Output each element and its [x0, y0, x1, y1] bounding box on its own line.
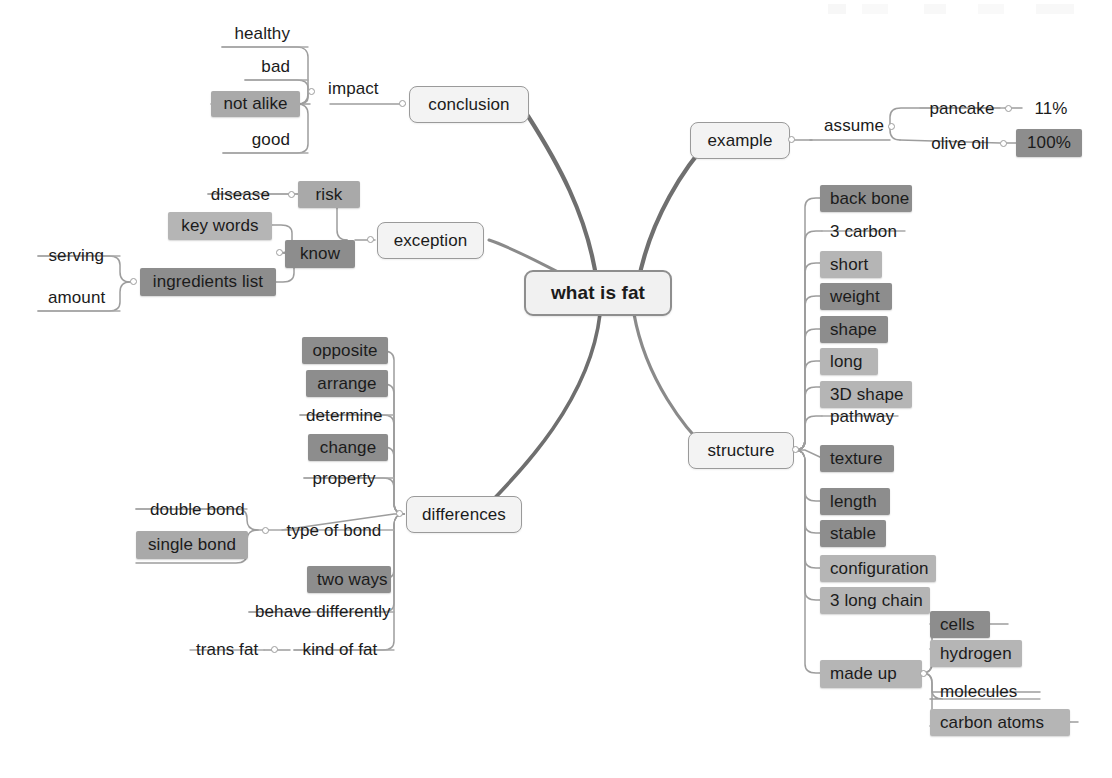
node-assume[interactable]: assume	[814, 113, 892, 138]
collapse-dot-assume[interactable]	[888, 123, 895, 130]
root-node-what-is-fat[interactable]: what is fat	[524, 270, 672, 316]
collapse-dot-differences[interactable]	[396, 510, 403, 517]
node-double-bond[interactable]: double bond	[140, 497, 244, 522]
node-good[interactable]: good	[218, 127, 300, 152]
collapse-dot-pancake[interactable]	[1005, 105, 1012, 112]
collapse-dot-impact[interactable]	[308, 88, 315, 95]
collapse-dot-know[interactable]	[276, 249, 283, 256]
node-change[interactable]: change	[308, 434, 388, 461]
node-shape-label: shape	[830, 320, 878, 340]
node-know[interactable]: know	[285, 240, 355, 268]
collapse-dot-kind-of-fat[interactable]	[271, 646, 278, 653]
node-risk[interactable]: risk	[298, 181, 360, 208]
node-texture[interactable]: texture	[820, 445, 894, 472]
node-determine[interactable]: determine	[296, 403, 388, 428]
node-length[interactable]: length	[820, 488, 890, 515]
branch-example-label: example	[691, 131, 789, 151]
node-bad[interactable]: bad	[224, 54, 300, 79]
node-length-label: length	[830, 492, 880, 512]
node-3-carbon[interactable]: 3 carbon	[820, 219, 912, 244]
collapse-dot-type-of-bond[interactable]	[262, 527, 269, 534]
node-3-long-chain-label: 3 long chain	[830, 591, 920, 611]
branch-differences[interactable]: differences	[406, 496, 522, 533]
node-not-alike-label: not alike	[221, 94, 290, 114]
collapse-dot-ingredients-list[interactable]	[130, 278, 137, 285]
node-amount[interactable]: amount	[38, 285, 114, 310]
node-not-alike[interactable]: not alike	[211, 91, 300, 117]
branch-structure[interactable]: structure	[688, 432, 794, 469]
node-made-up[interactable]: made up	[820, 660, 922, 688]
node-cells[interactable]: cells	[930, 611, 990, 638]
node-pancake-value[interactable]: 11%	[1022, 96, 1080, 121]
branch-structure-label: structure	[689, 441, 793, 461]
node-olive-oil[interactable]: olive oil	[918, 131, 1002, 156]
node-serving-label: serving	[48, 246, 104, 266]
branch-conclusion-label: conclusion	[410, 95, 528, 115]
node-3-long-chain[interactable]: 3 long chain	[820, 587, 930, 614]
node-pathway-label: pathway	[830, 407, 896, 427]
node-two-ways[interactable]: two ways	[307, 566, 391, 593]
collapse-dot-olive-oil[interactable]	[1000, 140, 1007, 147]
node-kind-of-fat[interactable]: kind of fat	[290, 637, 390, 662]
node-disease[interactable]: disease	[200, 182, 280, 207]
node-configuration[interactable]: configuration	[820, 555, 936, 582]
node-trans-fat[interactable]: trans fat	[186, 637, 264, 662]
node-texture-label: texture	[830, 449, 884, 469]
collapse-dot-made-up[interactable]	[920, 670, 927, 677]
node-serving[interactable]: serving	[38, 243, 114, 268]
node-property[interactable]: property	[300, 466, 388, 491]
node-key-words[interactable]: key words	[168, 212, 272, 240]
node-weight-label: weight	[830, 287, 882, 307]
node-back-bone-label: back bone	[830, 189, 902, 209]
collapse-dot-conclusion[interactable]	[399, 100, 406, 107]
node-opposite-label: opposite	[312, 341, 378, 361]
node-3-carbon-label: 3 carbon	[830, 222, 902, 242]
node-configuration-label: configuration	[830, 559, 926, 579]
node-shape[interactable]: shape	[820, 316, 888, 343]
node-stable[interactable]: stable	[820, 520, 886, 547]
node-molecules[interactable]: molecules	[930, 679, 1030, 704]
node-olive-oil-value[interactable]: 100%	[1016, 129, 1082, 157]
node-healthy[interactable]: healthy	[214, 21, 300, 46]
node-type-of-bond-label: type of bond	[286, 521, 382, 541]
node-opposite[interactable]: opposite	[302, 337, 388, 364]
node-3d-shape-label: 3D shape	[830, 385, 902, 405]
node-ingredients-list[interactable]: ingredients list	[140, 268, 276, 296]
node-arrange[interactable]: arrange	[306, 370, 388, 397]
node-back-bone[interactable]: back bone	[820, 185, 912, 212]
node-impact[interactable]: impact	[318, 76, 390, 102]
node-single-bond-label: single bond	[146, 535, 238, 555]
node-double-bond-label: double bond	[150, 500, 234, 520]
node-ingredients-list-label: ingredients list	[150, 272, 266, 292]
collapse-dot-risk[interactable]	[288, 191, 295, 198]
node-pathway[interactable]: pathway	[820, 404, 906, 429]
node-property-label: property	[310, 469, 378, 489]
branch-exception[interactable]: exception	[377, 222, 484, 259]
node-carbon-atoms[interactable]: carbon atoms	[930, 709, 1070, 736]
node-made-up-label: made up	[830, 664, 912, 684]
node-healthy-label: healthy	[224, 24, 290, 44]
node-pancake-label: pancake	[928, 99, 996, 119]
node-good-label: good	[228, 130, 290, 150]
node-disease-label: disease	[210, 185, 270, 205]
node-weight[interactable]: weight	[820, 283, 892, 310]
node-know-label: know	[295, 244, 345, 264]
collapse-dot-example[interactable]	[788, 136, 795, 143]
node-determine-label: determine	[306, 406, 378, 426]
node-change-label: change	[318, 438, 378, 458]
node-pancake[interactable]: pancake	[918, 96, 1006, 121]
node-carbon-atoms-label: carbon atoms	[940, 713, 1060, 733]
collapse-dot-structure[interactable]	[792, 446, 799, 453]
node-cells-label: cells	[940, 615, 980, 635]
collapse-dot-exception[interactable]	[367, 236, 374, 243]
node-behave-differently[interactable]: behave differently	[245, 599, 391, 624]
branch-example[interactable]: example	[690, 122, 790, 159]
node-hydrogen[interactable]: hydrogen	[930, 640, 1022, 667]
node-single-bond[interactable]: single bond	[136, 531, 248, 559]
node-short-label: short	[830, 255, 872, 275]
node-type-of-bond[interactable]: type of bond	[276, 518, 392, 543]
node-long[interactable]: long	[820, 348, 878, 375]
branch-conclusion[interactable]: conclusion	[409, 86, 529, 123]
node-short[interactable]: short	[820, 251, 882, 278]
node-long-label: long	[830, 352, 868, 372]
